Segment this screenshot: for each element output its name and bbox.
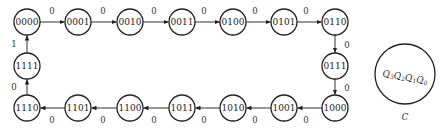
state-label: 1001 [273,103,296,113]
state-node-1000: 1000 [322,95,348,121]
transition-0001-to-0010: 0 [91,6,117,22]
transition-label: 0 [151,6,156,16]
state-node-0100: 0100 [220,9,246,35]
state-node-0010: 0010 [117,9,143,35]
transition-label: 0 [252,115,257,125]
state-label: 0010 [119,17,142,27]
state-label: 0111 [324,61,347,71]
transition-label: 0 [49,115,54,125]
transition-label: 0 [344,83,349,93]
state-label: 1011 [171,103,194,113]
state-node-1010: 1010 [220,95,246,121]
state-node-1100: 1100 [117,95,143,121]
state-node-0111: 0111 [322,53,348,79]
legend-caption: C [402,112,409,122]
transition-label: 0 [252,6,257,16]
state-label: 1100 [119,103,142,113]
state-label: 1000 [324,103,347,113]
transition-0111-to-1000: 0 [335,79,350,95]
transition-label: 0 [344,40,349,50]
state-label: 1010 [222,103,245,113]
transition-1100-to-1101: 0 [92,108,118,125]
transition-0011-to-0100: 0 [195,6,220,22]
transition-label: 0 [100,115,105,125]
diagram-canvas: 0000000000000001 00000001001000110100010… [0,0,445,134]
transition-0100-to-0101: 0 [246,6,271,22]
transition-1001-to-1010: 0 [247,108,272,125]
state-node-1011: 1011 [169,95,195,121]
state-nodes: 0000000100100011010001010110011110001001… [14,9,348,121]
state-node-1110: 1110 [14,95,40,121]
transition-0010-to-0011: 0 [143,6,169,22]
state-diagram: 0000000000000001 00000001001000110100010… [0,0,445,134]
transition-1110-to-1111: 0 [11,80,27,96]
transition-1111-to-0000: 1 [11,36,27,54]
transition-1101-to-1110: 0 [41,108,66,125]
transition-label: 0 [303,115,308,125]
state-label: 0011 [171,17,194,27]
state-node-0101: 0101 [271,9,297,35]
state-node-0000: 0000 [14,9,40,35]
state-node-1101: 1101 [65,95,91,121]
state-label: 0000 [16,17,39,27]
state-label: 1110 [16,103,39,113]
transition-label: 0 [201,6,206,16]
transition-label: 0 [151,115,156,125]
transition-1011-to-1100: 0 [144,108,170,125]
transition-0000-to-0001: 0 [40,6,65,22]
state-node-0110: 0110 [322,9,348,35]
state-node-0001: 0001 [65,9,91,35]
state-node-0011: 0011 [169,9,195,35]
transition-label: 0 [303,6,308,16]
transition-0110-to-0111: 0 [335,35,350,53]
state-label: 1111 [16,61,39,71]
transition-1000-to-1001: 0 [298,108,323,125]
state-label: 0001 [67,17,90,27]
transition-label: 0 [201,115,206,125]
transition-label: 0 [11,82,16,92]
transition-0101-to-0110: 0 [297,6,322,22]
legend-state-symbol: Q3Q2Q1Q0 C [375,44,435,122]
transition-label: 0 [100,6,105,16]
state-label: 0101 [273,17,296,27]
transition-label: 0 [49,6,54,16]
state-node-1111: 1111 [14,53,40,79]
state-label: 0110 [324,17,347,27]
transition-1010-to-1011: 0 [196,108,221,125]
state-node-1001: 1001 [271,95,297,121]
state-label: 0100 [222,17,245,27]
state-label: 1101 [67,103,90,113]
transition-label: 1 [11,39,16,49]
